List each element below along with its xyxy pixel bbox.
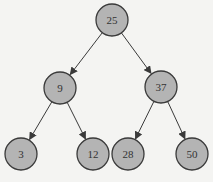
tree-diagram: 259373122850 <box>0 0 213 182</box>
node-label: 28 <box>123 148 135 160</box>
tree-node-25: 25 <box>96 4 128 36</box>
tree-node-28: 28 <box>112 138 144 170</box>
node-label: 12 <box>88 148 99 160</box>
tree-node-37: 37 <box>145 71 177 103</box>
node-label: 37 <box>156 81 168 93</box>
nodes-group: 259373122850 <box>5 4 208 170</box>
edge-25-to-37 <box>121 33 151 73</box>
edge-37-to-28 <box>136 101 154 138</box>
edge-37-to-50 <box>168 102 185 139</box>
edge-25-to-9 <box>70 33 102 75</box>
tree-svg: 259373122850 <box>0 0 213 182</box>
tree-node-9: 9 <box>44 72 76 104</box>
node-label: 9 <box>57 82 63 94</box>
tree-node-50: 50 <box>176 138 208 170</box>
edge-9-to-12 <box>67 102 85 138</box>
edge-9-to-3 <box>30 102 52 140</box>
tree-node-12: 12 <box>77 138 109 170</box>
node-label: 25 <box>107 14 119 26</box>
tree-node-3: 3 <box>5 138 37 170</box>
node-label: 3 <box>18 148 24 160</box>
node-label: 50 <box>187 148 199 160</box>
